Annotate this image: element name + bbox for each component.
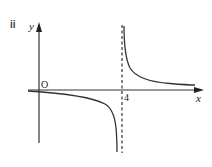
x-axis-label: x [195, 92, 201, 104]
curve-left-branch [28, 91, 117, 152]
part-label: ii [10, 19, 16, 30]
asymptote-label: 4 [124, 92, 129, 103]
origin-label: O [41, 79, 48, 90]
y-axis-label: y [28, 20, 34, 32]
curve-right-branch [124, 26, 195, 85]
graph: ii y x O 4 [0, 0, 212, 167]
y-axis-arrow-icon [36, 22, 42, 32]
